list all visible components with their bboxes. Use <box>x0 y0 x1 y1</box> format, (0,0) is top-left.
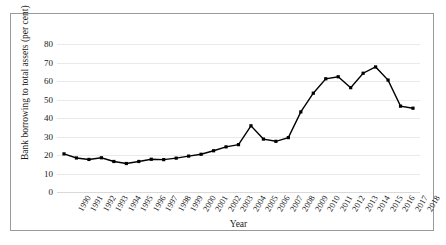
data-point-1994 <box>112 160 115 163</box>
data-point-1993 <box>100 156 103 159</box>
data-point-2002 <box>212 149 215 152</box>
y-axis: Bank borrowing to total assets (per cent… <box>11 14 57 222</box>
plot-area <box>57 44 420 192</box>
data-point-2010 <box>312 92 315 95</box>
x-axis: 1990199119921993199419951996199719981999… <box>57 194 420 240</box>
data-point-1998 <box>162 158 165 161</box>
data-point-2013 <box>349 86 352 89</box>
data-point-2000 <box>187 155 190 158</box>
y-tick-label-10: 10 <box>44 169 53 178</box>
data-point-2016 <box>386 78 389 81</box>
data-point-2015 <box>374 65 377 68</box>
data-point-1995 <box>125 162 128 165</box>
chart-figure: Bank borrowing to total assets (per cent… <box>0 0 446 245</box>
data-point-2009 <box>299 110 302 113</box>
data-point-1990 <box>62 152 65 155</box>
data-point-2012 <box>337 75 340 78</box>
data-point-1997 <box>150 158 153 161</box>
x-axis-title: Year <box>57 219 420 229</box>
figure-border: Bank borrowing to total assets (per cent… <box>10 13 434 231</box>
data-point-1996 <box>137 160 140 163</box>
data-point-2018 <box>411 107 414 110</box>
data-point-2005 <box>249 124 252 127</box>
gridline-0 <box>57 192 420 193</box>
data-point-2003 <box>224 145 227 148</box>
data-point-1999 <box>175 157 178 160</box>
y-tick-label-70: 70 <box>44 58 53 67</box>
data-point-2014 <box>362 72 365 75</box>
data-point-2011 <box>324 77 327 80</box>
data-point-2007 <box>274 140 277 143</box>
series-line <box>64 67 413 164</box>
series-markers <box>62 65 414 165</box>
y-tick-label-30: 30 <box>44 132 53 141</box>
y-tick-label-20: 20 <box>44 151 53 160</box>
data-point-2006 <box>262 137 265 140</box>
data-point-2008 <box>287 136 290 139</box>
y-axis-title: Bank borrowing to total assets (per cent… <box>20 10 30 160</box>
data-point-2017 <box>399 105 402 108</box>
data-point-1992 <box>87 158 90 161</box>
y-tick-label-50: 50 <box>44 95 53 104</box>
data-point-1991 <box>75 156 78 159</box>
y-tick-label-0: 0 <box>49 188 54 197</box>
y-tick-label-80: 80 <box>44 40 53 49</box>
y-tick-label-60: 60 <box>44 77 53 86</box>
data-point-2004 <box>237 143 240 146</box>
y-tick-label-40: 40 <box>44 114 53 123</box>
data-series-bank-borrowing <box>57 44 420 192</box>
data-point-2001 <box>200 153 203 156</box>
